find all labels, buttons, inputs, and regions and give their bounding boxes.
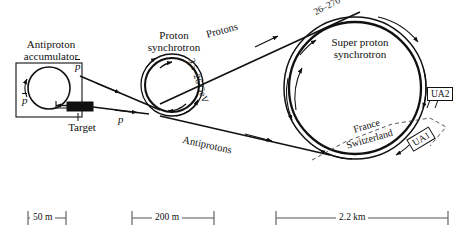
- scale-bars: [28, 211, 448, 225]
- target-label: Target: [54, 121, 110, 133]
- detector-ua2[interactable]: UA2: [427, 87, 453, 101]
- accumulator-label-line2: accumulator: [8, 50, 94, 62]
- antiproton-symbol-accumulator-out: p: [75, 60, 81, 72]
- pbar-glyph-left: p: [22, 94, 28, 106]
- pbar-glyph-top: p: [75, 60, 81, 72]
- detector-leaders: [427, 100, 438, 108]
- antiproton-symbol-accumulator-in: p: [22, 94, 28, 106]
- ps-label-line2: synchrotron: [137, 41, 211, 53]
- super-proton-synchrotron-label: Super proton synchrotron: [312, 36, 408, 61]
- ps-label-line1: Proton: [137, 29, 211, 41]
- scale-bar-label-50m: 50 m: [30, 212, 55, 222]
- target-block: [67, 102, 93, 121]
- sps-label-line1: Super proton: [312, 36, 408, 48]
- scale-bar-label-2.2km: 2.2 km: [336, 212, 368, 222]
- accumulator-label: Antiproton accumulator: [8, 38, 94, 63]
- proton-synchrotron-label: Proton synchrotron: [137, 29, 211, 54]
- sps-label-line2: synchrotron: [312, 48, 408, 60]
- proton-symbol-incoming: p: [118, 113, 124, 125]
- accumulator-label-line1: Antiproton: [8, 38, 94, 50]
- scale-bar-label-200m: 200 m: [152, 212, 182, 222]
